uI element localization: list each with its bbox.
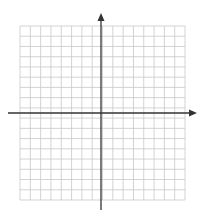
x-axis-arrow-icon [189,110,197,117]
coordinate-plane [0,0,210,215]
y-axis-arrow-icon [98,13,105,21]
